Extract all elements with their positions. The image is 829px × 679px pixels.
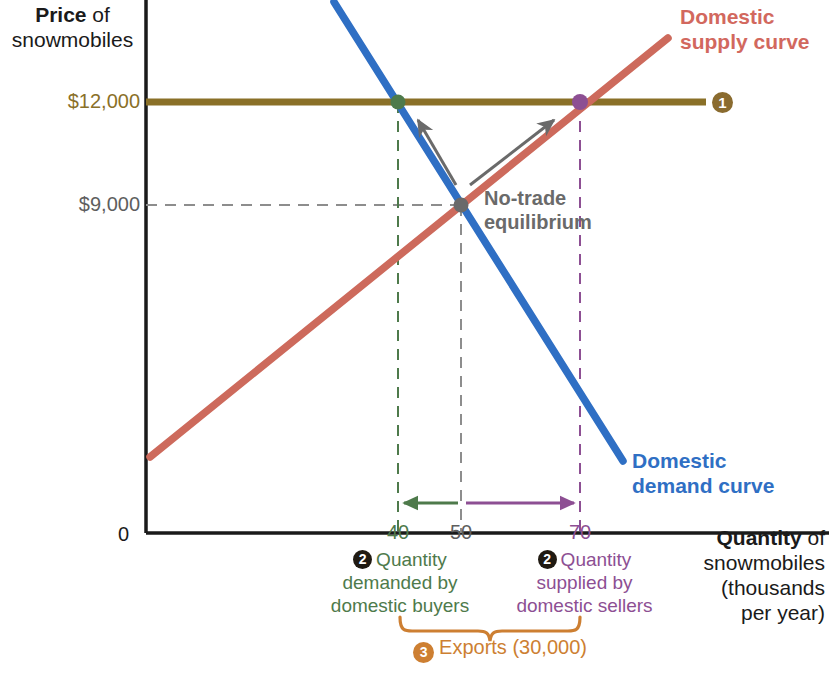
y-axis-title-bold: Price: [35, 3, 86, 26]
y-tick-label-equilibrium-price: $9,000: [48, 193, 140, 216]
x-tick-label-40: 40: [374, 521, 422, 544]
quantity-demanded-caption-line2: demanded by: [342, 572, 457, 593]
arrow-to-quantity-supplied: [470, 120, 554, 185]
x-axis-title-line2: snowmobiles: [704, 551, 825, 574]
x-tick-label-50: 50: [437, 521, 485, 544]
demand-curve-label: Domestic demand curve: [632, 448, 792, 498]
y-axis-title: Price of snowmobiles: [10, 2, 135, 52]
quantity-demanded-caption-line3: domestic buyers: [331, 595, 469, 616]
equilibrium-label-line2: equilibrium: [484, 211, 592, 233]
equilibrium-label-line1: No-trade: [484, 187, 566, 209]
demand-curve-label-line2: demand curve: [632, 474, 774, 497]
step-badge-3: 3: [413, 642, 434, 663]
x-axis-title: Quantity of snowmobiles (thousands per y…: [690, 525, 825, 625]
x-axis-title-rest: of: [802, 526, 825, 549]
chart-figure: Price of snowmobiles Quantity of snowmob…: [0, 0, 829, 679]
supply-curve-label-line1: Domestic: [680, 5, 775, 28]
y-axis-title-line2: snowmobiles: [12, 28, 133, 51]
quantity-demanded-point: [391, 95, 406, 110]
arrow-to-quantity-demanded: [418, 120, 456, 185]
demand-curve-label-line1: Domestic: [632, 449, 727, 472]
quantity-supplied-caption: 2Quantity supplied by domestic sellers: [492, 548, 677, 617]
exports-caption-text: Exports (30,000): [439, 636, 587, 658]
quantity-demanded-caption: 2Quantity demanded by domestic buyers: [310, 548, 490, 617]
x-axis-title-line4: per year): [741, 601, 825, 624]
supply-curve-label-line2: supply curve: [680, 30, 810, 53]
quantity-supplied-caption-line2: supplied by: [536, 572, 632, 593]
origin-label: 0: [118, 523, 129, 546]
no-trade-equilibrium-point: [454, 198, 469, 213]
x-axis-title-line3: (thousands: [721, 576, 825, 599]
quantity-supplied-point: [572, 94, 588, 110]
x-axis-title-bold: Quantity: [716, 526, 801, 549]
step-badge-2-demanded: 2: [353, 550, 372, 569]
quantity-supplied-caption-line1: Quantity: [561, 549, 632, 570]
y-axis-title-rest: of: [87, 3, 110, 26]
supply-curve-label: Domestic supply curve: [680, 4, 829, 54]
step-badge-2-supplied: 2: [538, 550, 557, 569]
exports-caption: 3Exports (30,000): [355, 636, 645, 663]
y-tick-label-world-price: $12,000: [48, 90, 140, 113]
quantity-supplied-caption-line3: domestic sellers: [516, 595, 652, 616]
no-trade-equilibrium-label: No-trade equilibrium: [484, 186, 624, 234]
quantity-demanded-caption-line1: Quantity: [376, 549, 447, 570]
step-badge-1: 1: [712, 92, 733, 113]
x-tick-label-70: 70: [556, 521, 604, 544]
